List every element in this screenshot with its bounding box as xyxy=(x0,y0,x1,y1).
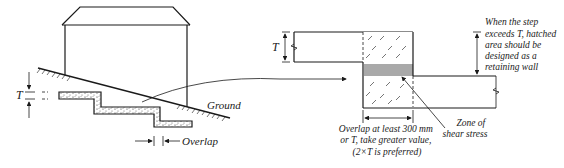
right-figure: T When the step exceeds T, hatched area … xyxy=(272,17,559,158)
t-label-right: T xyxy=(272,40,280,54)
t-dimension-left xyxy=(25,72,48,118)
step-note: When the step exceeds T, hatched area sh… xyxy=(485,17,559,72)
shear-note: Zone of shear stress xyxy=(443,118,488,139)
shear-note-line-1: Zone of xyxy=(456,118,486,128)
stepped-footing-diagram: T Ground Overlap xyxy=(0,0,564,168)
step-note-line-3: area should be xyxy=(485,40,541,50)
overlap-note-line-1: Overlap at least 300 mm xyxy=(339,124,433,134)
overlap-dimension-right xyxy=(363,110,413,123)
step-note-line-2: exceeds T, hatched xyxy=(485,29,557,39)
shear-stress-zone xyxy=(364,64,413,76)
ground-label: Ground xyxy=(207,99,241,111)
shear-note-line-2: shear stress xyxy=(443,129,488,139)
t-dimension-right xyxy=(282,32,290,62)
step-note-line-1: When the step xyxy=(485,17,539,27)
overlap-label-left: Overlap xyxy=(182,135,219,147)
t-label-left: T xyxy=(16,88,24,102)
hatched-retaining-zone xyxy=(363,32,413,107)
overlap-note: Overlap at least 300 mm or T, take great… xyxy=(339,124,435,158)
step-note-line-5: retaining wall xyxy=(485,62,539,72)
overlap-note-line-2: or T, take greater value, xyxy=(340,135,431,145)
overlap-dimension-left xyxy=(135,136,180,146)
overlap-note-line-3: (2×T is preferred) xyxy=(353,147,422,158)
left-figure: T Ground Overlap xyxy=(16,7,280,147)
step-note-line-4: designed as a xyxy=(485,51,537,61)
step-height-dimension xyxy=(473,32,481,74)
stepped-footing xyxy=(59,92,192,127)
